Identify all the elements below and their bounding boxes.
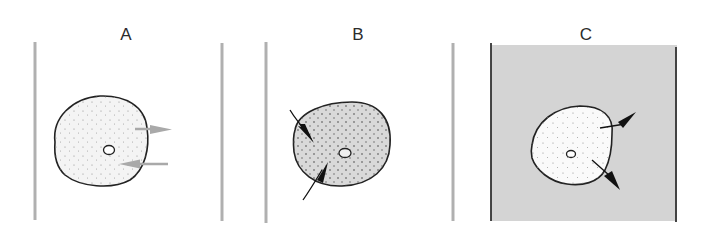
nucleus-c bbox=[567, 151, 576, 158]
cell-a bbox=[55, 96, 148, 186]
cell-b bbox=[293, 102, 390, 186]
arrow-head-icon bbox=[150, 125, 172, 134]
panel-label-a: A bbox=[120, 25, 132, 44]
osmosis-diagram: A B bbox=[0, 0, 706, 233]
panel-b: B bbox=[266, 25, 453, 223]
cytoplasm-b bbox=[293, 102, 390, 186]
panel-c: C bbox=[491, 25, 677, 222]
nucleus-a bbox=[104, 146, 115, 155]
cytoplasm-a bbox=[55, 96, 148, 186]
nucleus-b bbox=[339, 149, 351, 158]
panel-label-b: B bbox=[352, 25, 363, 44]
panel-label-c: C bbox=[580, 25, 592, 44]
panel-a: A bbox=[35, 25, 222, 221]
